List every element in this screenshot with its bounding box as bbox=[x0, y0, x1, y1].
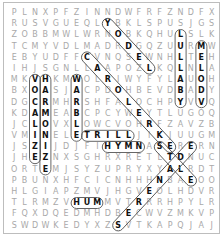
grid-cell[interactable]: B bbox=[19, 175, 29, 186]
grid-cell[interactable]: U bbox=[175, 108, 185, 119]
grid-cell[interactable]: L bbox=[92, 18, 102, 29]
grid-cell[interactable]: E bbox=[71, 18, 81, 29]
grid-cell[interactable]: R bbox=[71, 97, 81, 108]
grid-cell[interactable]: Z bbox=[196, 119, 206, 130]
grid-cell[interactable]: S bbox=[144, 18, 154, 29]
grid-cell[interactable]: D bbox=[61, 41, 71, 52]
grid-cell[interactable]: V bbox=[9, 130, 19, 141]
grid-cell[interactable]: D bbox=[19, 108, 29, 119]
grid-cell[interactable]: L bbox=[71, 119, 81, 130]
grid-cell[interactable]: R bbox=[92, 130, 102, 141]
grid-cell[interactable]: N bbox=[92, 7, 102, 18]
grid-cell[interactable]: O bbox=[19, 29, 29, 40]
grid-cell[interactable]: E bbox=[196, 52, 206, 63]
grid-cell[interactable]: G bbox=[30, 186, 40, 197]
grid-cell[interactable]: B bbox=[9, 85, 19, 96]
grid-cell[interactable]: T bbox=[206, 164, 216, 175]
grid-cell[interactable]: Z bbox=[30, 141, 40, 152]
grid-cell[interactable]: C bbox=[30, 97, 40, 108]
grid-cell[interactable]: A bbox=[71, 85, 81, 96]
grid-cell[interactable]: H bbox=[134, 175, 144, 186]
grid-cell[interactable]: Y bbox=[186, 197, 196, 208]
grid-cell[interactable]: V bbox=[113, 197, 123, 208]
grid-cell[interactable]: W bbox=[82, 29, 92, 40]
grid-cell[interactable]: H bbox=[61, 97, 71, 108]
grid-cell[interactable]: H bbox=[144, 175, 154, 186]
grid-cell[interactable]: N bbox=[113, 175, 123, 186]
grid-cell[interactable]: M bbox=[82, 208, 92, 219]
grid-cell[interactable]: T bbox=[123, 197, 133, 208]
grid-cell[interactable]: M bbox=[40, 108, 50, 119]
grid-cell[interactable]: X bbox=[30, 208, 40, 219]
grid-cell[interactable]: M bbox=[9, 74, 19, 85]
grid-cell[interactable]: V bbox=[61, 197, 71, 208]
grid-cell[interactable]: J bbox=[186, 18, 196, 29]
grid-cell[interactable]: V bbox=[51, 41, 61, 52]
grid-cell[interactable]: J bbox=[51, 141, 61, 152]
grid-cell[interactable]: V bbox=[92, 52, 102, 63]
grid-cell[interactable]: Q bbox=[165, 63, 175, 74]
grid-cell[interactable]: X bbox=[206, 7, 216, 18]
grid-cell[interactable]: C bbox=[206, 152, 216, 163]
grid-cell[interactable]: B bbox=[134, 85, 144, 96]
grid-cell[interactable]: R bbox=[186, 41, 196, 52]
grid-cell[interactable]: L bbox=[154, 152, 164, 163]
grid-cell[interactable]: G bbox=[186, 108, 196, 119]
grid-cell[interactable]: H bbox=[175, 186, 185, 197]
grid-cell[interactable]: R bbox=[19, 164, 29, 175]
grid-cell[interactable]: N bbox=[175, 7, 185, 18]
grid-cell[interactable]: L bbox=[71, 63, 81, 74]
grid-cell[interactable]: Y bbox=[82, 220, 92, 231]
grid-cell[interactable]: P bbox=[61, 186, 71, 197]
grid-cell[interactable]: N bbox=[206, 141, 216, 152]
grid-cell[interactable]: M bbox=[40, 197, 50, 208]
grid-cell[interactable]: R bbox=[40, 97, 50, 108]
grid-cell[interactable]: V bbox=[196, 208, 206, 219]
grid-cell[interactable]: D bbox=[123, 41, 133, 52]
grid-cell[interactable]: L bbox=[175, 63, 185, 74]
grid-cell[interactable]: D bbox=[30, 220, 40, 231]
grid-cell[interactable]: X bbox=[92, 220, 102, 231]
grid-cell[interactable]: H bbox=[165, 52, 175, 63]
grid-cell[interactable]: S bbox=[30, 18, 40, 29]
grid-cell[interactable]: D bbox=[71, 208, 81, 219]
grid-cell[interactable]: U bbox=[165, 29, 175, 40]
grid-cell[interactable]: P bbox=[51, 7, 61, 18]
grid-cell[interactable]: N bbox=[186, 63, 196, 74]
grid-cell[interactable]: Q bbox=[82, 18, 92, 29]
grid-cell[interactable]: G bbox=[196, 18, 206, 29]
grid-cell[interactable]: D bbox=[165, 85, 175, 96]
grid-cell[interactable]: V bbox=[196, 97, 206, 108]
grid-cell[interactable]: L bbox=[19, 197, 29, 208]
grid-cell[interactable]: N bbox=[51, 152, 61, 163]
grid-cell[interactable]: F bbox=[154, 7, 164, 18]
grid-cell[interactable]: R bbox=[175, 141, 185, 152]
grid-cell[interactable]: L bbox=[19, 7, 29, 18]
grid-cell[interactable]: J bbox=[9, 119, 19, 130]
grid-cell[interactable]: L bbox=[134, 18, 144, 29]
grid-cell[interactable]: T bbox=[9, 197, 19, 208]
grid-cell[interactable]: E bbox=[71, 130, 81, 141]
grid-cell[interactable]: M bbox=[123, 141, 133, 152]
grid-cell[interactable]: F bbox=[61, 52, 71, 63]
grid-cell[interactable]: O bbox=[9, 164, 19, 175]
grid-cell[interactable]: F bbox=[82, 141, 92, 152]
grid-cell[interactable]: E bbox=[134, 52, 144, 63]
grid-cell[interactable]: Z bbox=[165, 208, 175, 219]
grid-cell[interactable]: A bbox=[40, 85, 50, 96]
grid-cell[interactable]: M bbox=[51, 29, 61, 40]
grid-cell[interactable]: N bbox=[40, 130, 50, 141]
grid-cell[interactable]: U bbox=[196, 152, 206, 163]
grid-cell[interactable]: J bbox=[9, 141, 19, 152]
grid-cell[interactable]: D bbox=[40, 208, 50, 219]
grid-cell[interactable]: J bbox=[165, 130, 175, 141]
grid-cell[interactable]: H bbox=[9, 186, 19, 197]
grid-cell[interactable]: A bbox=[51, 186, 61, 197]
grid-cell[interactable]: Y bbox=[154, 164, 164, 175]
grid-cell[interactable]: P bbox=[92, 108, 102, 119]
grid-cell[interactable]: Y bbox=[30, 52, 40, 63]
grid-cell[interactable]: Y bbox=[134, 164, 144, 175]
grid-cell[interactable]: L bbox=[175, 52, 185, 63]
grid-cell[interactable]: V bbox=[154, 208, 164, 219]
grid-cell[interactable]: X bbox=[40, 7, 50, 18]
